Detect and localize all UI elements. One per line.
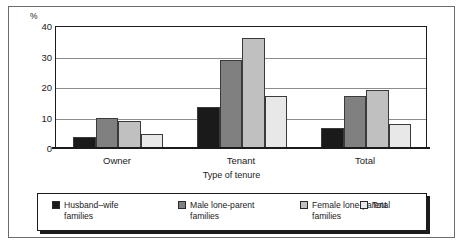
legend-swatch-icon-3 — [360, 201, 368, 209]
bar-group-tenant — [197, 26, 287, 148]
legend-swatch-icon-2 — [300, 201, 308, 209]
chart-figure: % 010203040 Type of tenure Husband–wife … — [0, 0, 463, 245]
legend-item-3[interactable]: Total — [360, 200, 390, 211]
y-tick-label-0: 0 — [30, 144, 52, 153]
bar-total-series-1 — [344, 96, 367, 148]
bar-tenant-series-0 — [197, 107, 220, 148]
y-tick-label-20: 20 — [30, 83, 52, 92]
legend-label-3: Total — [372, 200, 390, 211]
x-tick-label-total: Total — [303, 155, 427, 166]
legend-swatch-icon-1 — [178, 201, 186, 209]
bar-tenant-series-2 — [242, 38, 265, 148]
bar-total-series-2 — [366, 90, 389, 148]
bar-total-series-3 — [389, 124, 412, 148]
x-axis-title: Type of tenure — [0, 170, 463, 180]
legend-label-1: Male lone-parent families — [190, 200, 255, 221]
x-axis-baseline — [52, 147, 430, 149]
bar-tenant-series-1 — [220, 60, 243, 148]
y-tick-label-40: 40 — [30, 22, 52, 31]
plot-area — [55, 26, 427, 148]
legend-item-0[interactable]: Husband–wife families — [52, 200, 118, 221]
bar-group-total — [321, 26, 411, 148]
y-tick-label-10: 10 — [30, 114, 52, 123]
x-tick-label-tenant: Tenant — [179, 155, 303, 166]
bar-owner-series-2 — [118, 121, 141, 148]
y-axis: 010203040 — [26, 18, 54, 158]
y-tick-label-30: 30 — [30, 53, 52, 62]
legend-label-0: Husband–wife families — [64, 200, 118, 221]
chart-legend: Husband–wife familiesMale lone-parent fa… — [37, 193, 427, 231]
legend-swatch-icon-0 — [52, 201, 60, 209]
legend-item-1[interactable]: Male lone-parent families — [178, 200, 255, 221]
bar-total-series-0 — [321, 128, 344, 148]
x-tick-label-owner: Owner — [55, 155, 179, 166]
bar-tenant-series-3 — [265, 96, 288, 148]
bar-owner-series-1 — [96, 118, 119, 149]
bar-group-owner — [73, 26, 163, 148]
bar-owner-series-3 — [141, 134, 164, 148]
